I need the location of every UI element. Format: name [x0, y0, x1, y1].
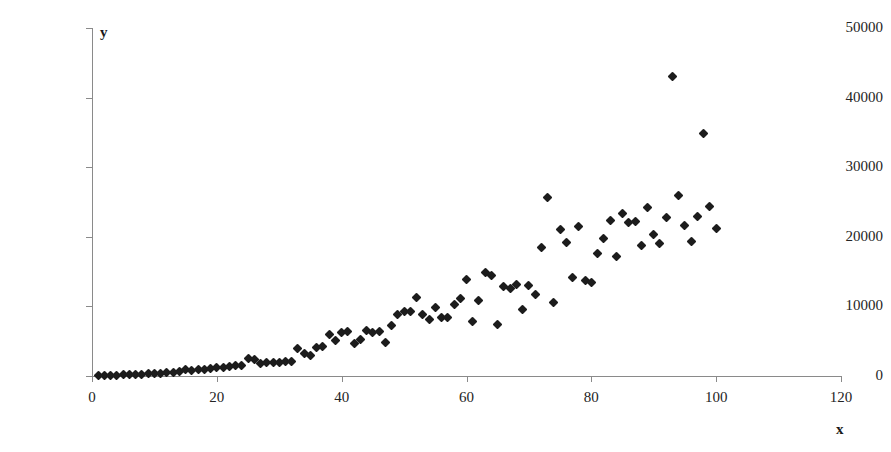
x-axis-tick: [841, 376, 842, 382]
data-point: [524, 281, 534, 291]
data-point: [368, 327, 378, 337]
data-point: [143, 369, 153, 379]
data-point: [543, 192, 553, 202]
data-point: [337, 328, 347, 338]
data-point: [636, 241, 646, 251]
data-point: [686, 237, 696, 247]
data-point: [624, 218, 634, 228]
data-point: [574, 221, 584, 231]
y-axis-tick: [86, 28, 92, 29]
data-point: [418, 309, 428, 319]
y-axis-tick-label: 30000: [807, 159, 891, 174]
data-point: [424, 315, 434, 325]
scatter-chart: y x 010000200003000040000500000204060801…: [0, 0, 891, 452]
data-point: [374, 327, 384, 337]
data-point: [131, 369, 141, 379]
data-point: [599, 234, 609, 244]
x-axis-tick-label: 100: [705, 390, 728, 405]
data-point: [487, 271, 497, 281]
data-point: [649, 229, 659, 239]
y-axis-tick: [86, 306, 92, 307]
data-point: [231, 361, 241, 371]
data-point: [380, 338, 390, 348]
data-point: [505, 283, 515, 293]
data-point: [630, 217, 640, 227]
data-point: [193, 365, 203, 375]
y-axis-tick: [86, 167, 92, 168]
data-point: [249, 355, 259, 365]
data-point: [430, 302, 440, 312]
x-axis-tick-label: 40: [334, 390, 349, 405]
x-axis-tick: [591, 376, 592, 382]
data-point: [262, 358, 272, 368]
y-axis-tick-label: 40000: [807, 90, 891, 105]
y-axis-line: [92, 28, 93, 376]
x-axis-tick: [716, 376, 717, 382]
x-axis-tick-label: 0: [88, 390, 96, 405]
data-point: [212, 363, 222, 373]
data-point: [480, 268, 490, 278]
y-axis-tick-label: 50000: [807, 20, 891, 35]
data-point: [237, 360, 247, 370]
data-point: [181, 365, 191, 375]
data-point: [299, 348, 309, 358]
data-point: [412, 292, 422, 302]
data-point: [274, 357, 284, 367]
x-axis-tick: [92, 376, 93, 382]
data-point: [561, 237, 571, 247]
data-point: [493, 320, 503, 330]
y-axis-tick-label: 20000: [807, 229, 891, 244]
data-point: [187, 366, 197, 376]
data-point: [362, 326, 372, 336]
data-point: [387, 321, 397, 331]
data-point: [318, 341, 328, 351]
data-point: [206, 364, 216, 374]
x-axis-tick-label: 20: [209, 390, 224, 405]
data-point: [499, 281, 509, 291]
data-point: [593, 249, 603, 259]
data-point: [605, 215, 615, 225]
data-point: [511, 280, 521, 290]
data-point: [530, 290, 540, 300]
x-axis-tick: [217, 376, 218, 382]
y-axis-tick: [86, 98, 92, 99]
data-point: [405, 306, 415, 316]
data-point: [692, 212, 702, 222]
x-axis-tick: [467, 376, 468, 382]
data-point: [268, 357, 278, 367]
data-point: [555, 225, 565, 235]
data-point: [668, 71, 678, 81]
data-point: [443, 312, 453, 322]
data-point: [468, 316, 478, 326]
y-axis-title: y: [100, 25, 108, 40]
data-point: [399, 307, 409, 317]
y-axis-tick-label: 10000: [807, 298, 891, 313]
x-axis-tick-label: 80: [584, 390, 599, 405]
y-axis-tick-label: 0: [807, 368, 891, 383]
data-point: [455, 293, 465, 303]
x-axis-tick-label: 120: [830, 390, 853, 405]
data-point: [199, 364, 209, 374]
data-point: [674, 191, 684, 201]
x-axis-title: x: [836, 422, 844, 437]
data-point: [330, 336, 340, 346]
data-point: [536, 243, 546, 253]
data-point: [149, 369, 159, 379]
data-point: [705, 202, 715, 212]
data-point: [393, 309, 403, 319]
data-point: [306, 351, 316, 361]
y-axis-tick: [86, 237, 92, 238]
data-point: [355, 335, 365, 345]
data-point: [324, 330, 334, 340]
data-point: [124, 370, 134, 380]
data-point: [462, 274, 472, 284]
data-point: [580, 276, 590, 286]
data-point: [611, 251, 621, 261]
data-point: [243, 354, 253, 364]
data-point: [118, 370, 128, 380]
data-point: [312, 343, 322, 353]
data-point: [349, 338, 359, 348]
data-point: [586, 278, 596, 288]
data-point: [711, 223, 721, 233]
data-point: [224, 362, 234, 372]
